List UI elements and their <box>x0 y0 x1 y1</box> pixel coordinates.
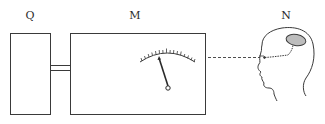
diagram-canvas: Q M N <box>0 0 325 124</box>
connector-q-m <box>51 66 71 71</box>
meter-dial <box>140 49 195 91</box>
meter-ticks <box>141 49 195 62</box>
meter-pivot <box>166 86 170 90</box>
brain-region <box>285 33 307 47</box>
diagram-svg <box>0 0 325 124</box>
meter-needle <box>159 58 168 86</box>
box-q <box>11 34 51 115</box>
box-m <box>71 34 206 115</box>
